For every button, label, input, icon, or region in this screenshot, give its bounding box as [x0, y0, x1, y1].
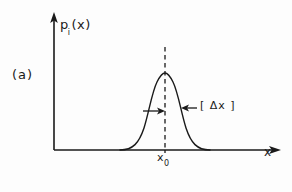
y-axis-label: pi(x) — [60, 18, 91, 35]
width-marker-left-arrow — [143, 108, 165, 115]
distribution-plot — [0, 0, 292, 192]
y-axis-label-subscript: i — [68, 28, 71, 37]
width-annotation-label: [ Δx ] — [200, 100, 236, 111]
peak-label-subscript: 0 — [164, 159, 170, 168]
width-marker-right-arrow — [181, 105, 197, 112]
peak-position-label: x0 — [157, 152, 170, 166]
x-axis-label: x — [264, 146, 271, 158]
y-axis-label-argument: (x) — [72, 17, 91, 32]
panel-label: (a) — [12, 68, 33, 81]
peak-label-base: x — [157, 151, 164, 164]
figure-panel-a: (a) pi(x) x x0 [ Δx ] — [0, 0, 292, 192]
